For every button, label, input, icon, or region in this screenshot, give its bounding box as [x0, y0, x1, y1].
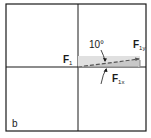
angle-label: 10°	[89, 39, 104, 50]
f1x-pointer-head	[104, 68, 108, 72]
panel-label: b	[12, 118, 18, 129]
f1x-label: F1x	[112, 73, 124, 85]
f1y-label: F1y	[133, 39, 145, 51]
force-diagram: F1 10° F1y F1x b	[0, 0, 151, 138]
f1-label: F1	[63, 54, 73, 66]
